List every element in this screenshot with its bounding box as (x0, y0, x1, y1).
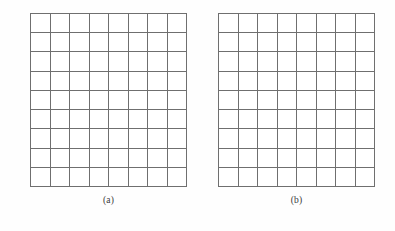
grid-cell[interactable] (168, 72, 188, 91)
grid-cell[interactable] (219, 91, 239, 110)
grid-cell[interactable] (278, 168, 298, 187)
grid-cell[interactable] (258, 91, 278, 110)
grid-cell[interactable] (278, 91, 298, 110)
grid-cell[interactable] (219, 33, 239, 52)
grid-cell[interactable] (278, 14, 298, 33)
grid-cell[interactable] (90, 129, 110, 148)
grid-cell[interactable] (356, 110, 376, 129)
grid-cell[interactable] (129, 91, 149, 110)
grid-cell[interactable] (239, 91, 259, 110)
grid-cell[interactable] (109, 110, 129, 129)
grid-cell[interactable] (148, 149, 168, 168)
grid-cell[interactable] (336, 149, 356, 168)
grid-cell[interactable] (129, 33, 149, 52)
grid-cell[interactable] (317, 14, 337, 33)
grid-cell[interactable] (70, 168, 90, 187)
grid-cell[interactable] (168, 52, 188, 71)
grid-cell[interactable] (168, 129, 188, 148)
grid-cell[interactable] (70, 72, 90, 91)
grid-cell[interactable] (278, 52, 298, 71)
grid-cell[interactable] (278, 149, 298, 168)
grid-cell[interactable] (336, 168, 356, 187)
grid-cell[interactable] (258, 14, 278, 33)
grid-cell[interactable] (31, 14, 51, 33)
grid-cell[interactable] (356, 149, 376, 168)
grid-cell[interactable] (148, 33, 168, 52)
grid-cell[interactable] (336, 14, 356, 33)
grid-cell[interactable] (219, 168, 239, 187)
grid-cell[interactable] (31, 168, 51, 187)
grid-cell[interactable] (278, 33, 298, 52)
grid-cell[interactable] (90, 168, 110, 187)
grid-cell[interactable] (90, 91, 110, 110)
grid-cell[interactable] (297, 168, 317, 187)
grid-cell[interactable] (219, 72, 239, 91)
grid-cell[interactable] (70, 91, 90, 110)
grid-cell[interactable] (219, 110, 239, 129)
grid-cell[interactable] (109, 149, 129, 168)
grid-cell[interactable] (239, 149, 259, 168)
grid-cell[interactable] (51, 52, 71, 71)
grid-cell[interactable] (356, 33, 376, 52)
grid-cell[interactable] (356, 72, 376, 91)
grid-cell[interactable] (317, 91, 337, 110)
grid-cell[interactable] (317, 52, 337, 71)
grid-cell[interactable] (51, 149, 71, 168)
grid-cell[interactable] (258, 72, 278, 91)
grid-cell[interactable] (219, 14, 239, 33)
grid-cell[interactable] (129, 149, 149, 168)
grid-cell[interactable] (31, 33, 51, 52)
grid-cell[interactable] (336, 52, 356, 71)
grid-cell[interactable] (297, 149, 317, 168)
grid-cell[interactable] (70, 33, 90, 52)
grid-cell[interactable] (51, 168, 71, 187)
grid-cell[interactable] (336, 129, 356, 148)
grid-cell[interactable] (90, 110, 110, 129)
grid-cell[interactable] (239, 52, 259, 71)
grid-cell[interactable] (219, 52, 239, 71)
grid-cell[interactable] (148, 52, 168, 71)
grid-cell[interactable] (51, 91, 71, 110)
grid-cell[interactable] (109, 168, 129, 187)
grid-cell[interactable] (278, 129, 298, 148)
grid-cell[interactable] (109, 91, 129, 110)
grid-cell[interactable] (258, 52, 278, 71)
grid-cell[interactable] (129, 52, 149, 71)
grid-cell[interactable] (31, 72, 51, 91)
grid-cell[interactable] (239, 14, 259, 33)
grid-cell[interactable] (90, 14, 110, 33)
grid-cell[interactable] (31, 110, 51, 129)
grid-cell[interactable] (148, 129, 168, 148)
grid-cell[interactable] (278, 110, 298, 129)
grid-cell[interactable] (109, 129, 129, 148)
grid-cell[interactable] (70, 149, 90, 168)
grid-cell[interactable] (239, 168, 259, 187)
grid-cell[interactable] (297, 52, 317, 71)
grid-cell[interactable] (278, 72, 298, 91)
grid-cell[interactable] (356, 52, 376, 71)
grid-cell[interactable] (109, 52, 129, 71)
grid-cell[interactable] (109, 14, 129, 33)
grid-cell[interactable] (219, 129, 239, 148)
grid-cell[interactable] (297, 91, 317, 110)
grid-cell[interactable] (51, 14, 71, 33)
grid-cell[interactable] (336, 33, 356, 52)
grid-cell[interactable] (31, 149, 51, 168)
grid-cell[interactable] (297, 72, 317, 91)
grid-cell[interactable] (317, 168, 337, 187)
grid-cell[interactable] (109, 72, 129, 91)
grid-cell[interactable] (148, 110, 168, 129)
grid-cell[interactable] (239, 129, 259, 148)
grid-cell[interactable] (129, 72, 149, 91)
grid-b[interactable] (218, 13, 375, 187)
grid-cell[interactable] (129, 110, 149, 129)
grid-cell[interactable] (168, 168, 188, 187)
grid-cell[interactable] (129, 129, 149, 148)
grid-cell[interactable] (168, 110, 188, 129)
grid-cell[interactable] (129, 14, 149, 33)
grid-cell[interactable] (31, 91, 51, 110)
grid-cell[interactable] (109, 33, 129, 52)
grid-cell[interactable] (168, 91, 188, 110)
grid-cell[interactable] (297, 33, 317, 52)
grid-cell[interactable] (239, 33, 259, 52)
